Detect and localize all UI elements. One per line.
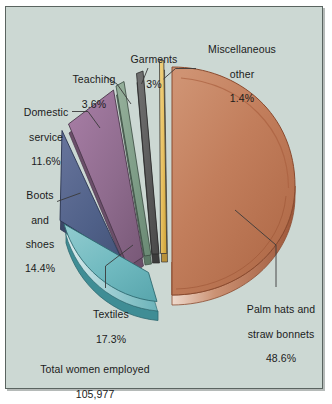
label-textiles: Textiles 17.3% — [66, 296, 144, 357]
label-palm-hats-line2: straw bonnets — [248, 328, 315, 340]
label-miscellaneous-other: Miscellaneous other 1.4% — [184, 31, 288, 116]
label-palm-hats-line1: Palm hats and — [247, 303, 315, 315]
label-garments-line1: Garments — [131, 53, 178, 65]
label-boots-and-shoes-line3: shoes — [26, 238, 55, 250]
label-miscellaneous-other-percent: 1.4% — [230, 92, 254, 104]
label-miscellaneous-other-line2: other — [230, 68, 254, 80]
total-women-employed-value: 105,977 — [76, 388, 115, 400]
label-miscellaneous-other-line1: Miscellaneous — [208, 43, 276, 55]
label-domestic-service-line2: service — [29, 131, 63, 143]
total-women-employed-caption: Total women employed 105,977 — [19, 351, 159, 404]
label-palm-hats-percent: 48.6% — [266, 352, 296, 364]
label-textiles-percent: 17.3% — [96, 333, 126, 345]
label-domestic-service-percent: 11.6% — [31, 155, 61, 167]
label-textiles-line1: Textiles — [93, 308, 129, 320]
label-palm-hats-and-straw-bonnets: Palm hats and straw bonnets 48.6% — [222, 291, 328, 376]
label-boots-and-shoes-line1: Boots — [26, 189, 53, 201]
label-boots-and-shoes-percent: 14.4% — [25, 262, 55, 274]
label-teaching-percent: 3.6% — [82, 98, 106, 110]
label-teaching-line1: Teaching — [73, 73, 116, 85]
label-boots-and-shoes: Boots and shoes 14.4% — [10, 177, 58, 287]
label-garments-percent: 3% — [146, 78, 161, 90]
label-domestic-service: Domestic service 11.6% — [8, 94, 72, 179]
total-women-employed-label: Total women employed — [40, 363, 149, 375]
label-boots-and-shoes-line2: and — [31, 214, 49, 226]
label-domestic-service-line1: Domestic — [24, 106, 69, 118]
